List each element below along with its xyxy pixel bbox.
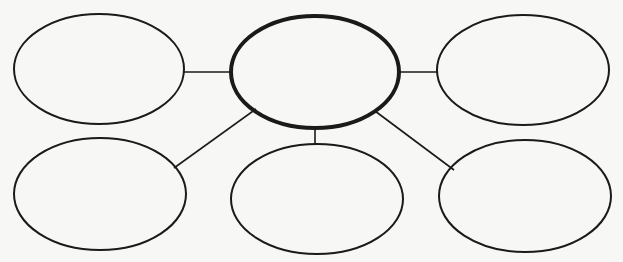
bubble-map-diagram <box>0 0 623 262</box>
connector-bottom-left <box>174 109 256 168</box>
bubble-bottom-left-shape <box>14 138 186 250</box>
bubble-top-right-shape <box>437 15 609 125</box>
bubble-center <box>231 16 399 128</box>
bubble-bottom-left <box>14 138 186 250</box>
bubble-bottom-right <box>439 140 611 252</box>
connector-lines <box>174 72 454 170</box>
bubble-top-left-shape <box>14 14 184 124</box>
bubble-bottom-center-shape <box>231 144 403 254</box>
bubble-bottom-center <box>231 144 403 254</box>
connector-bottom-right <box>375 111 454 170</box>
bubble-top-left <box>14 14 184 124</box>
bubble-center-shape <box>231 16 399 128</box>
bubble-bottom-right-shape <box>439 140 611 252</box>
bubble-nodes <box>14 14 611 254</box>
bubble-top-right <box>437 15 609 125</box>
